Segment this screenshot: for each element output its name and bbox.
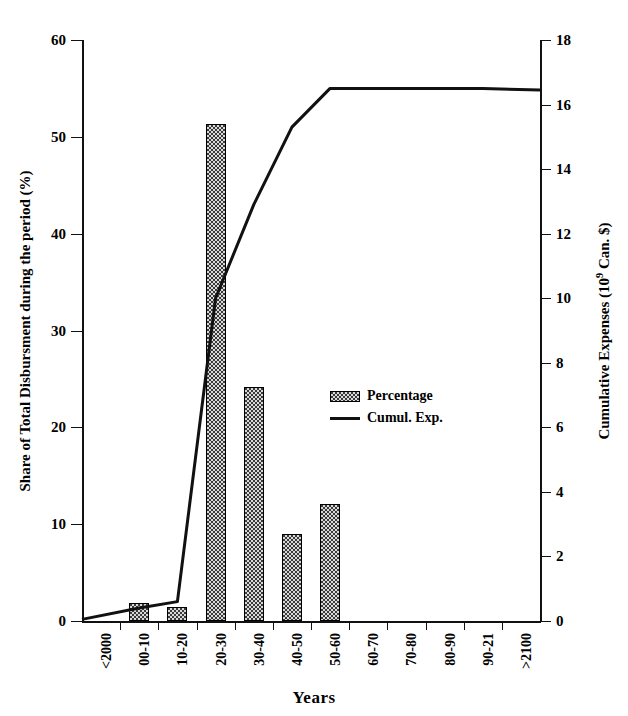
y-axis-left-tick bbox=[71, 621, 82, 622]
y-axis-left-tick-label: 60 bbox=[51, 32, 66, 49]
y-axis-left-tick-label: 0 bbox=[59, 613, 67, 630]
plot-area: 0102030405060 024681012141618 <200000-10… bbox=[82, 40, 540, 621]
x-axis-tick-label: <2000 bbox=[99, 633, 115, 669]
x-axis-tick bbox=[235, 621, 236, 630]
y-axis-right-tick bbox=[540, 427, 551, 428]
x-axis-tick bbox=[273, 621, 274, 630]
cumulative-expenses-line bbox=[82, 88, 540, 619]
y-axis-left-tick bbox=[71, 137, 82, 138]
y-axis-left-tick-label: 40 bbox=[51, 225, 66, 242]
y-axis-left-title: Share of Total Disbursment during the pe… bbox=[14, 40, 36, 621]
y-axis-right-tick-label: 16 bbox=[556, 96, 571, 113]
chart-canvas: Share of Total Disbursment during the pe… bbox=[0, 0, 628, 716]
x-axis-tick bbox=[387, 621, 388, 630]
y-axis-right-tick-label: 10 bbox=[556, 290, 571, 307]
x-axis-title: Years bbox=[0, 688, 628, 708]
x-axis-tick bbox=[502, 621, 503, 630]
legend-item-percentage: Percentage bbox=[330, 385, 443, 407]
y-axis-right-tick bbox=[540, 492, 551, 493]
x-axis-tick-label: 20-30 bbox=[214, 633, 230, 666]
y-axis-left-title-text: Share of Total Disbursment during the pe… bbox=[17, 170, 34, 491]
y-axis-right-tick-label: 12 bbox=[556, 225, 571, 242]
y-axis-right-tick-label: 6 bbox=[556, 419, 564, 436]
x-axis-tick-label: 60-70 bbox=[366, 633, 382, 666]
y-axis-right-tick-label: 8 bbox=[556, 354, 564, 371]
x-axis-tick-label: >2100 bbox=[519, 633, 535, 669]
y-axis-right-tick-label: 18 bbox=[556, 32, 571, 49]
x-axis-tick bbox=[426, 621, 427, 630]
y-axis-left-tick-label: 50 bbox=[51, 128, 66, 145]
y-axis-left-tick-label: 20 bbox=[51, 419, 66, 436]
y-axis-left-tick-label: 10 bbox=[51, 516, 66, 533]
axis-line-right bbox=[540, 40, 542, 622]
legend: Percentage Cumul. Exp. bbox=[330, 385, 443, 429]
x-axis-tick bbox=[197, 621, 198, 630]
x-axis-tick-label: 50-60 bbox=[328, 633, 344, 666]
x-axis-tick bbox=[349, 621, 350, 630]
legend-swatch-icon bbox=[330, 391, 360, 402]
y-axis-right-tick bbox=[540, 363, 551, 364]
x-axis-tick-label: 30-40 bbox=[252, 633, 268, 666]
x-axis-tick-label: 00-10 bbox=[137, 633, 153, 666]
y-axis-right-tick bbox=[540, 40, 551, 41]
x-axis-tick bbox=[464, 621, 465, 630]
y-axis-right-title-text: Cumulative Expenses (109 Can. $) bbox=[594, 222, 613, 439]
x-axis-tick bbox=[158, 621, 159, 630]
y-axis-right-tick bbox=[540, 298, 551, 299]
x-axis-tick-label: 40-50 bbox=[290, 633, 306, 666]
y-axis-left-tick bbox=[71, 427, 82, 428]
legend-item-cumul-exp: Cumul. Exp. bbox=[330, 407, 443, 429]
y-axis-right-tick bbox=[540, 234, 551, 235]
legend-label-percentage: Percentage bbox=[367, 388, 433, 404]
legend-line-icon bbox=[330, 417, 360, 420]
y-axis-right-tick bbox=[540, 105, 551, 106]
x-axis-tick-label: 80-90 bbox=[443, 633, 459, 666]
y-axis-left-tick bbox=[71, 40, 82, 41]
y-axis-right-title: Cumulative Expenses (109 Can. $) bbox=[592, 40, 614, 621]
y-axis-left-tick-label: 30 bbox=[51, 322, 66, 339]
y-axis-right-tick-label: 14 bbox=[556, 161, 571, 178]
y-axis-right-tick-label: 0 bbox=[556, 613, 564, 630]
x-axis-tick bbox=[311, 621, 312, 630]
x-axis-tick-label: 90-21 bbox=[481, 633, 497, 666]
x-axis-tick-label: 10-20 bbox=[175, 633, 191, 666]
y-axis-right-tick bbox=[540, 169, 551, 170]
y-axis-right-tick bbox=[540, 556, 551, 557]
y-axis-right-tick bbox=[540, 621, 551, 622]
y-axis-right-tick-label: 2 bbox=[556, 548, 564, 565]
x-axis-tick-label: 70-80 bbox=[404, 633, 420, 666]
x-axis-tick bbox=[120, 621, 121, 630]
y-axis-left-tick bbox=[71, 524, 82, 525]
line-series-cumulative-expenses bbox=[82, 40, 540, 621]
y-axis-left-tick bbox=[71, 234, 82, 235]
y-axis-left-tick bbox=[71, 331, 82, 332]
legend-label-cumul-exp: Cumul. Exp. bbox=[367, 410, 443, 426]
y-axis-right-tick-label: 4 bbox=[556, 483, 564, 500]
